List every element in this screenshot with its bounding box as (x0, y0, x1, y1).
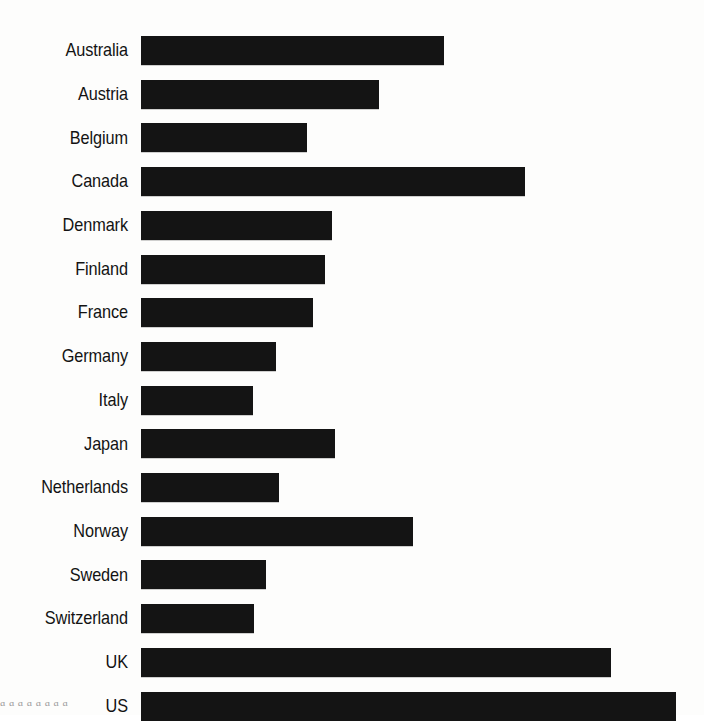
bar-track (141, 211, 704, 240)
bar-row: Germany (0, 342, 704, 371)
bar-category-label: Canada (22, 172, 128, 191)
bar-track (141, 517, 704, 546)
bar-rect (141, 429, 335, 458)
bar-row: Australia (0, 36, 704, 65)
bar-track (141, 298, 704, 327)
bar-row: Denmark (0, 211, 704, 240)
bar-row: Norway (0, 517, 704, 546)
bar-row: Austria (0, 80, 704, 109)
bar-track (141, 342, 704, 371)
bar-category-label: France (22, 303, 128, 322)
bar-category-label: Denmark (22, 216, 128, 235)
bar-row: Italy (0, 386, 704, 415)
scan-bleed-artifact: a a a a a a a a (0, 702, 704, 715)
bar-track (141, 167, 704, 196)
bar-category-label: Netherlands (22, 478, 128, 497)
bar-rect (141, 560, 266, 589)
bar-category-label: Finland (22, 260, 128, 279)
bar-row: France (0, 298, 704, 327)
bar-rect (141, 386, 253, 415)
bar-rect (141, 80, 379, 109)
bar-track (141, 429, 704, 458)
bar-row: Japan (0, 429, 704, 458)
bar-category-label: Italy (22, 391, 128, 410)
bar-rect (141, 648, 611, 677)
bar-rect (141, 342, 276, 371)
bar-rect (141, 123, 307, 152)
bar-rect (141, 255, 325, 284)
bar-track (141, 473, 704, 502)
bar-category-label: UK (22, 653, 128, 672)
bar-rect (141, 36, 444, 65)
bar-row: Belgium (0, 123, 704, 152)
bar-track (141, 648, 704, 677)
bar-row: Switzerland (0, 604, 704, 633)
bar-rect (141, 298, 313, 327)
bar-category-label: Austria (22, 85, 128, 104)
bar-rect (141, 167, 525, 196)
bar-row: Finland (0, 255, 704, 284)
scan-bleed-text: a a a a a a a a (0, 702, 704, 710)
bar-track (141, 36, 704, 65)
bar-track (141, 123, 704, 152)
bar-rect (141, 473, 279, 502)
bar-category-label: Australia (22, 41, 128, 60)
bar-category-label: Norway (22, 522, 128, 541)
bar-track (141, 604, 704, 633)
bar-category-label: Belgium (22, 129, 128, 148)
bar-track (141, 255, 704, 284)
bar-track (141, 560, 704, 589)
bar-category-label: Germany (22, 347, 128, 366)
bar-category-label: Switzerland (22, 609, 128, 628)
bar-row: Canada (0, 167, 704, 196)
bar-row: Netherlands (0, 473, 704, 502)
bar-track (141, 386, 704, 415)
bar-row: Sweden (0, 560, 704, 589)
bar-row: UK (0, 648, 704, 677)
bar-rect (141, 604, 254, 633)
bar-track (141, 80, 704, 109)
bar-rect (141, 517, 413, 546)
bar-rect (141, 211, 332, 240)
chart-plot-area: AustraliaAustriaBelgiumCanadaDenmarkFinl… (0, 0, 704, 700)
bar-category-label: Sweden (22, 566, 128, 585)
bar-category-label: Japan (22, 435, 128, 454)
